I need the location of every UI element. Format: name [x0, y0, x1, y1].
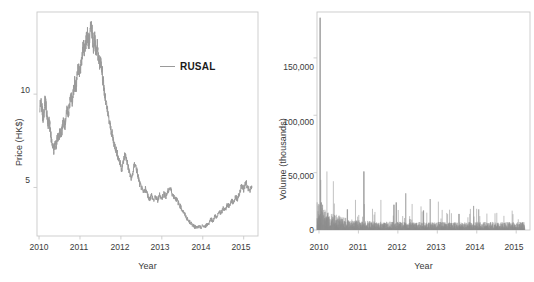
price-plot-area — [0, 0, 267, 282]
price-xtick-2012: 2012 — [102, 242, 138, 252]
legend-label-rusal: RUSAL — [180, 61, 215, 72]
volume-xtick-2015: 2015 — [496, 242, 532, 252]
volume-panel: 150,000 100,000 50,000 0 2010 2011 2012 … — [267, 0, 534, 282]
volume-xtick-2014: 2014 — [457, 242, 493, 252]
volume-xtick-2013: 2013 — [418, 242, 454, 252]
volume-ytick-50000: 50,000 — [267, 171, 314, 181]
volume-ytick-0: 0 — [267, 225, 314, 235]
price-ytick-5: 5 — [6, 175, 30, 185]
price-yaxis-title: Price (HK$) — [14, 118, 24, 166]
price-xtick-2010: 2010 — [21, 242, 57, 252]
price-panel: 10 5 2010 2011 2012 2013 2014 2015 Year … — [0, 0, 267, 282]
volume-yaxis-title: Volume (thousands) — [278, 118, 288, 200]
price-legend: RUSAL — [160, 61, 215, 72]
price-ytick-10: 10 — [6, 85, 30, 95]
price-xtick-2013: 2013 — [142, 242, 178, 252]
price-xtick-2011: 2011 — [61, 242, 97, 252]
price-xtick-2015: 2015 — [223, 242, 259, 252]
price-xtick-2014: 2014 — [183, 242, 219, 252]
volume-xtick-2011: 2011 — [340, 242, 376, 252]
two-panel-figure: 10 5 2010 2011 2012 2013 2014 2015 Year … — [0, 0, 534, 282]
legend-line-icon — [160, 66, 175, 67]
volume-xtick-2012: 2012 — [379, 242, 415, 252]
volume-xtick-2010: 2010 — [301, 242, 337, 252]
price-xaxis-title: Year — [37, 261, 258, 271]
volume-ytick-150000: 150,000 — [267, 62, 314, 72]
volume-ytick-100000: 100,000 — [267, 117, 314, 127]
volume-plot-area — [267, 0, 534, 282]
volume-xaxis-title: Year — [317, 261, 530, 271]
